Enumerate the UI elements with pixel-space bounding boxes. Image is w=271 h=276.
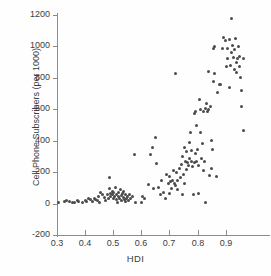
x-axis-title: HDI [0, 253, 271, 264]
data-point [155, 162, 158, 165]
data-point [108, 176, 111, 179]
data-point [182, 173, 185, 176]
data-point [134, 201, 137, 204]
data-point [168, 192, 171, 195]
data-point [192, 193, 195, 196]
data-point [195, 124, 198, 127]
data-point [240, 89, 243, 92]
y-tick-label: 400 [3, 136, 50, 145]
data-point [143, 197, 146, 200]
data-point [57, 201, 60, 204]
data-point [151, 146, 154, 149]
y-tick-label: 200 [3, 167, 50, 176]
y-axis-tick-labels: -200020040060080010001200 [0, 0, 50, 276]
data-point [235, 61, 238, 64]
data-point [203, 160, 206, 163]
data-point [230, 51, 233, 54]
data-point [97, 195, 100, 198]
data-point [149, 153, 152, 156]
data-point [194, 110, 197, 113]
x-tick-label: 0.4 [73, 239, 97, 248]
y-tick-label: 1200 [3, 10, 50, 19]
data-point [207, 70, 210, 73]
data-point [181, 193, 184, 196]
data-point [175, 171, 178, 174]
data-point [176, 179, 179, 182]
data-point [196, 148, 199, 151]
data-point [238, 55, 241, 58]
y-axis-title: Cell Phone Subscribers (per 1000) [31, 27, 41, 207]
data-point [133, 153, 136, 156]
data-point [181, 155, 184, 158]
x-tick-label: 0.6 [129, 239, 153, 248]
scatter-chart-figure: -200020040060080010001200 0.30.40.50.60.… [0, 0, 271, 276]
data-point [228, 38, 231, 41]
data-point [147, 183, 150, 186]
y-tick-label: 800 [3, 73, 50, 82]
data-point [238, 65, 241, 68]
data-point [225, 65, 228, 68]
y-tick-label: 0 [3, 199, 50, 208]
data-point [98, 201, 101, 204]
data-point [219, 83, 222, 86]
data-point [197, 192, 200, 195]
data-point [207, 108, 210, 111]
data-point [224, 39, 227, 42]
y-tick-label: 600 [3, 104, 50, 113]
data-point [104, 199, 107, 202]
data-point [116, 201, 119, 204]
data-point [162, 191, 165, 194]
data-point [228, 86, 231, 89]
data-point [188, 141, 191, 144]
plot-area [57, 15, 265, 235]
data-point [200, 157, 203, 160]
data-point [209, 105, 212, 108]
data-point [210, 167, 213, 170]
data-point [240, 105, 243, 108]
data-point [195, 160, 198, 163]
data-point [239, 76, 242, 79]
data-point [152, 187, 155, 190]
x-axis-line [55, 235, 270, 236]
data-point [194, 152, 197, 155]
x-tick-label: 0.5 [101, 239, 125, 248]
data-point [213, 45, 216, 48]
data-point [211, 148, 214, 151]
data-point [119, 188, 122, 191]
data-point [202, 110, 205, 113]
data-point [189, 131, 192, 134]
data-point [191, 165, 194, 168]
data-point [174, 184, 177, 187]
data-point [210, 139, 213, 142]
data-point [237, 45, 240, 48]
data-point [199, 131, 202, 134]
x-tick-label: 0.8 [186, 239, 210, 248]
data-point [183, 146, 186, 149]
data-point [232, 56, 235, 59]
data-point [234, 37, 237, 40]
data-point [185, 168, 188, 171]
data-point [212, 80, 215, 83]
data-point [235, 71, 238, 74]
y-tick [53, 235, 58, 236]
data-point [140, 201, 143, 204]
y-tick-label: 1000 [3, 41, 50, 50]
data-point [197, 164, 200, 167]
x-tick-label: 0.3 [45, 239, 69, 248]
data-point [160, 179, 163, 182]
data-point [231, 44, 234, 47]
data-point [170, 187, 173, 190]
data-point [91, 200, 94, 203]
data-point [233, 48, 236, 51]
data-point [73, 201, 76, 204]
data-point [213, 72, 216, 75]
data-point [242, 57, 245, 60]
data-point [176, 188, 179, 191]
data-point [221, 47, 224, 50]
data-point [154, 136, 157, 139]
data-point [183, 182, 186, 185]
data-point [185, 150, 188, 153]
data-point [216, 91, 219, 94]
data-point [180, 163, 183, 166]
data-point [242, 129, 245, 132]
